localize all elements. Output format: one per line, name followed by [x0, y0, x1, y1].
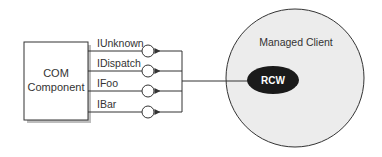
interface-label: IDispatch — [97, 57, 141, 69]
component-label-line1: COM — [43, 67, 69, 79]
lollipop-icon — [142, 65, 154, 77]
client-label: Managed Client — [259, 36, 333, 48]
rcw-label: RCW — [261, 75, 285, 86]
com-component-box: COM Component — [24, 42, 91, 123]
lollipop-icon — [142, 106, 154, 118]
interface-label: IFoo — [97, 77, 118, 89]
com-interop-diagram: COM Component IUnknown IDispatch IFoo IB… — [0, 0, 382, 157]
lollipop-icon — [142, 85, 154, 97]
lollipop-icon — [142, 45, 154, 57]
interface-iunknown: IUnknown — [88, 37, 182, 57]
rcw-wrapper: RCW — [247, 66, 299, 94]
interface-ibar: IBar — [88, 98, 182, 118]
component-label-line2: Component — [28, 81, 85, 93]
interface-label: IBar — [97, 98, 117, 110]
interface-ifoo: IFoo — [88, 77, 182, 97]
interface-idispatch: IDispatch — [88, 57, 182, 77]
interface-label: IUnknown — [97, 37, 144, 49]
